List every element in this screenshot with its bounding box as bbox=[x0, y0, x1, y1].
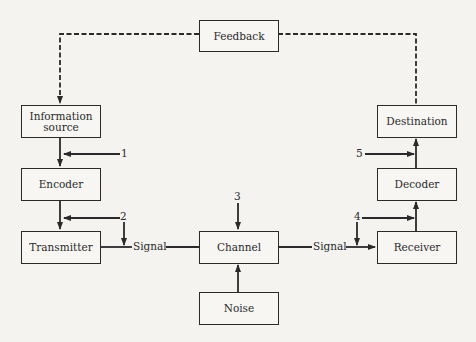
receiver-node: Receiver bbox=[377, 231, 457, 264]
information-source-label-line1: Information bbox=[29, 111, 92, 122]
feedback-node: Feedback bbox=[199, 20, 279, 52]
feedback-to-source-edge bbox=[60, 34, 199, 103]
decoder-node: Decoder bbox=[377, 168, 457, 201]
feedback-label: Feedback bbox=[213, 31, 264, 42]
destination-to-feedback-edge bbox=[278, 34, 416, 105]
destination-node: Destination bbox=[377, 105, 457, 138]
input-label-1: 1 bbox=[121, 148, 128, 159]
input-label-2: 2 bbox=[120, 211, 127, 222]
transmitter-label: Transmitter bbox=[29, 242, 92, 253]
encoder-label: Encoder bbox=[39, 179, 84, 190]
input-label-5: 5 bbox=[356, 148, 363, 159]
input-label-3: 3 bbox=[234, 191, 241, 202]
input-label-4: 4 bbox=[354, 211, 361, 222]
encoder-node: Encoder bbox=[21, 168, 101, 201]
transmitter-node: Transmitter bbox=[21, 231, 101, 264]
receiver-label: Receiver bbox=[394, 242, 441, 253]
channel-label: Channel bbox=[217, 242, 261, 253]
information-source-label-line2: source bbox=[43, 122, 79, 133]
noise-label: Noise bbox=[224, 303, 254, 314]
decoder-label: Decoder bbox=[395, 179, 440, 190]
signal-label-left: Signal bbox=[133, 241, 167, 252]
channel-node: Channel bbox=[199, 231, 279, 264]
signal-label-right: Signal bbox=[313, 241, 347, 252]
noise-node: Noise bbox=[199, 292, 279, 325]
destination-label: Destination bbox=[386, 116, 447, 127]
information-source-node: Information source bbox=[21, 105, 101, 138]
